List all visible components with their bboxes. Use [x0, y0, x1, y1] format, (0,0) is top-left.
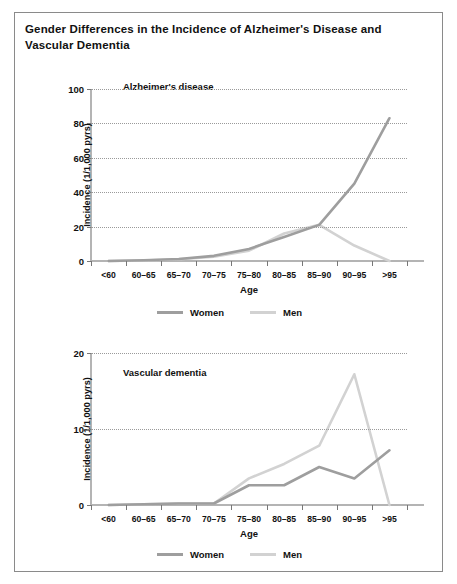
x-tick-label: <60 — [101, 514, 116, 524]
x-tick-mark — [231, 505, 232, 510]
chart-panel-alzheimers: Alzheimer's disease Incidence (1/1,000 p… — [15, 71, 444, 333]
y-tick-label: 10 — [73, 424, 84, 435]
x-axis-title-alzheimers: Age — [91, 284, 407, 295]
x-tick-mark — [91, 261, 92, 266]
gridline — [91, 158, 407, 159]
x-tick-label: 65–70 — [167, 270, 191, 280]
y-tick-mark — [87, 227, 91, 228]
y-tick-mark — [87, 353, 91, 354]
plot-area-alzheimers: Incidence (1/1,000 pyrs) Age 02040608010… — [91, 89, 407, 261]
figure-title: Gender Differences in the Incidence of A… — [25, 21, 429, 53]
y-tick-mark — [87, 123, 91, 124]
legend-swatch-men — [250, 553, 276, 556]
y-tick-label: 0 — [79, 500, 84, 511]
gridline — [91, 123, 407, 124]
y-tick-label: 0 — [79, 256, 84, 267]
y-tick-label: 100 — [68, 84, 84, 95]
legend-alzheimers: Women Men — [15, 307, 444, 318]
x-tick-label: 80–85 — [272, 514, 296, 524]
x-tick-mark — [372, 505, 373, 510]
legend-swatch-men — [250, 311, 276, 314]
gridline — [91, 353, 407, 354]
x-tick-label: 75–80 — [237, 514, 261, 524]
x-tick-mark — [372, 261, 373, 266]
x-tick-mark — [337, 261, 338, 266]
x-tick-label: 60–65 — [132, 270, 156, 280]
x-tick-mark — [407, 261, 408, 266]
y-tick-label: 40 — [73, 187, 84, 198]
legend-swatch-women — [157, 553, 183, 556]
x-tick-label: 85–90 — [307, 514, 331, 524]
y-tick-label: 60 — [73, 152, 84, 163]
plot-area-vascular: Incidence (1/1,000 pyrs) Age 01020<6060–… — [91, 353, 407, 505]
x-tick-mark — [231, 261, 232, 266]
legend-label-women: Women — [190, 549, 224, 560]
x-tick-label: 70–75 — [202, 514, 226, 524]
x-axis-title-vascular: Age — [91, 528, 407, 539]
x-tick-mark — [91, 505, 92, 510]
x-tick-label: 60–65 — [132, 514, 156, 524]
legend-item-women: Women — [157, 549, 224, 560]
x-tick-label: 70–75 — [202, 270, 226, 280]
chart-panel-vascular: Vascular dementia Incidence (1/1,000 pyr… — [15, 337, 444, 573]
x-tick-label: 85–90 — [307, 270, 331, 280]
x-tick-mark — [161, 505, 162, 510]
legend-label-men: Men — [283, 307, 302, 318]
gridline — [91, 429, 407, 430]
y-tick-mark — [87, 158, 91, 159]
x-tick-mark — [196, 505, 197, 510]
gridline — [91, 192, 407, 193]
legend-label-women: Women — [190, 307, 224, 318]
series-line-women — [109, 118, 390, 261]
x-tick-label: <60 — [101, 270, 116, 280]
legend-label-men: Men — [283, 549, 302, 560]
x-tick-mark — [407, 505, 408, 510]
x-tick-label: 90–95 — [342, 514, 366, 524]
x-tick-label: >95 — [382, 270, 397, 280]
series-lines-alzheimers — [91, 89, 407, 261]
x-tick-mark — [196, 261, 197, 266]
x-tick-label: 75–80 — [237, 270, 261, 280]
legend-item-men: Men — [250, 307, 302, 318]
y-tick-mark — [87, 429, 91, 430]
x-tick-mark — [337, 505, 338, 510]
x-tick-label: 65–70 — [167, 514, 191, 524]
x-tick-mark — [302, 261, 303, 266]
legend-item-women: Women — [157, 307, 224, 318]
gridline — [91, 227, 407, 228]
y-tick-mark — [87, 89, 91, 90]
x-tick-mark — [302, 505, 303, 510]
x-tick-mark — [267, 261, 268, 266]
x-tick-label: 90–95 — [342, 270, 366, 280]
y-tick-label: 80 — [73, 118, 84, 129]
y-tick-label: 20 — [73, 221, 84, 232]
legend-vascular: Women Men — [15, 549, 444, 560]
x-tick-label: >95 — [382, 514, 397, 524]
y-tick-mark — [87, 192, 91, 193]
x-tick-mark — [126, 261, 127, 266]
x-tick-mark — [267, 505, 268, 510]
x-tick-mark — [126, 505, 127, 510]
gridline — [91, 89, 407, 90]
figure-frame: Gender Differences in the Incidence of A… — [14, 12, 443, 572]
legend-swatch-women — [157, 311, 183, 314]
legend-item-men: Men — [250, 549, 302, 560]
x-tick-mark — [161, 261, 162, 266]
x-tick-label: 80–85 — [272, 270, 296, 280]
y-tick-label: 20 — [73, 348, 84, 359]
series-line-men — [109, 225, 390, 261]
